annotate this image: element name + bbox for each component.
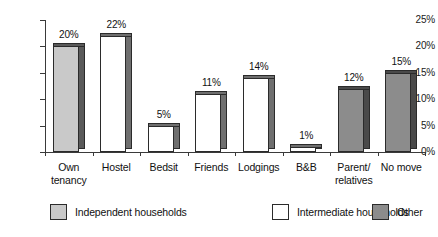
bar [338,20,364,152]
x-axis-tick [140,152,141,156]
x-axis-category-label-line: No move [364,161,438,174]
legend-label: Independent households [75,206,187,218]
bar-front-face [385,73,411,152]
legend-swatch [272,204,289,220]
x-axis-category-label-line: relatives [317,174,391,187]
legend-swatch [50,204,67,220]
bar-top-face [195,91,227,95]
chart-legend: Independent householdsIntermediate house… [0,202,435,228]
x-axis-tick [188,152,189,156]
bar-side-face [364,86,370,149]
bar-front-face [338,89,364,152]
bar-top-face [243,75,275,79]
bar-top-face [290,144,322,148]
bar-front-face [53,46,79,152]
bar-side-face [221,91,227,149]
bar-value-label: 14% [229,62,289,72]
bar-value-label: 1% [276,131,336,141]
bar [148,20,174,152]
bar-value-label: 5% [134,110,194,120]
x-axis-tick [283,152,284,156]
x-axis-tick [45,152,46,156]
x-axis-tick [330,152,331,156]
bar-value-label: 15% [371,57,431,67]
x-axis-tick [235,152,236,156]
bar-side-face [79,43,85,149]
bar-front-face [195,94,221,152]
bar-value-label: 12% [324,73,384,83]
x-axis-category-label-line: tenancy [32,174,106,187]
bar-value-label: 20% [39,30,99,40]
bar [243,20,269,152]
bar-top-face [148,123,180,127]
bar-top-face [53,43,85,47]
bar-top-face [338,86,370,90]
bar-front-face [243,78,269,152]
bar-value-label: 11% [181,78,241,88]
bar-front-face [148,126,174,152]
x-axis-tick [378,152,379,156]
x-axis-tick [425,152,426,156]
bar-side-face [269,75,275,149]
bar-top-face [385,70,417,74]
bar-value-label: 22% [86,20,146,30]
x-axis-category-label: No move [364,161,438,174]
bar-front-face [100,36,126,152]
bar-side-face [126,33,132,149]
bar [100,20,126,152]
legend-swatch [372,204,389,220]
legend-label: Intermediate households [297,206,409,218]
legend-label: Other [397,206,423,218]
bar-side-face [411,70,417,149]
bar [385,20,411,152]
x-axis-tick [93,152,94,156]
bar-top-face [100,33,132,37]
